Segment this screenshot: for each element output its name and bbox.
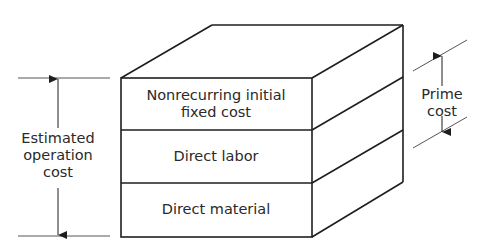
label-prime: Prime [421, 86, 463, 103]
label-direct-labor: Direct labor [174, 148, 259, 165]
cost-block-diagram: Nonrecurring initial fixed cost Direct l… [0, 0, 499, 252]
label-cost-left: cost [43, 164, 73, 181]
block-top-face [121, 25, 403, 78]
label-cost-right: cost [427, 103, 457, 120]
label-operation: operation [23, 147, 93, 164]
label-fixed-cost: fixed cost [181, 104, 251, 121]
label-estimated: Estimated [21, 130, 94, 147]
label-direct-material: Direct material [162, 201, 271, 218]
label-nonrecurring-initial: Nonrecurring initial [146, 87, 285, 104]
block-side-face [312, 25, 403, 237]
